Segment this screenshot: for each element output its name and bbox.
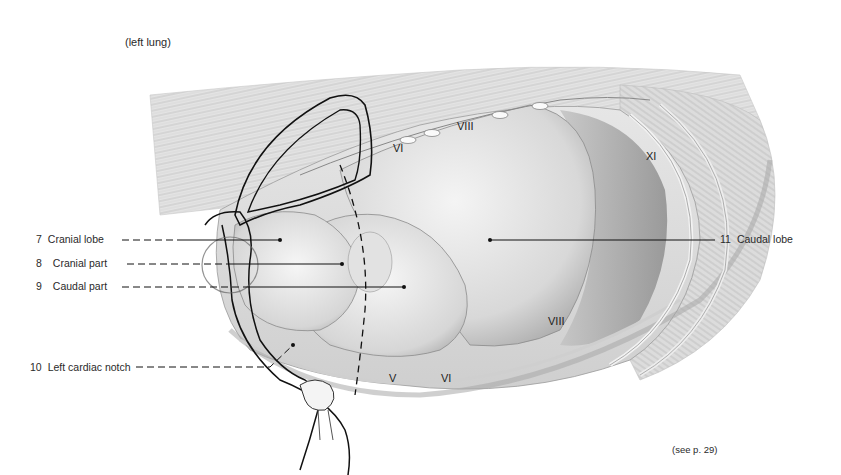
label-text: Caudal lobe [737,233,793,245]
label-text: Left cardiac notch [48,361,131,373]
rib-label: VIII [457,120,474,132]
pointer-dot [340,262,344,266]
label-left-cardiac-notch: 10Left cardiac notch [30,361,131,373]
label-caudal-lobe: 11Caudal lobe [720,233,793,245]
caption-left-lung: (left lung) [125,36,171,48]
label-number: 9 [36,280,42,292]
rib-label: VIII [548,315,565,327]
label-text: Cranial lobe [48,233,104,245]
pointer-dot [402,285,406,289]
label-text: Caudal part [53,280,107,292]
label-caudal-part: 9Caudal part [36,280,107,292]
foramen [532,103,548,110]
label-number: 7 [36,233,42,245]
label-cranial-part: 8Cranial part [36,257,107,269]
rib-label: V [389,372,397,384]
rib-label: VI [393,142,403,154]
rib-label: VI [441,372,451,384]
foramen [424,130,440,137]
cardiac-bulge [348,232,392,292]
label-cranial-lobe: 7Cranial lobe [36,233,104,245]
label-text: Cranial part [53,257,107,269]
pointer-dot [488,238,492,242]
foramen [492,112,508,119]
caption-see-page: (see p. 29) [672,444,717,455]
elbow-joint [300,380,334,410]
pointer-dot [291,343,295,347]
label-number: 10 [30,361,42,373]
anatomical-illustration: VI VIII XI VIII V VI [0,0,841,475]
label-number: 8 [36,257,42,269]
pointer-dot [278,238,282,242]
forearm [318,410,333,440]
label-number: 11 [720,233,731,245]
rib-label: XI [646,150,656,162]
